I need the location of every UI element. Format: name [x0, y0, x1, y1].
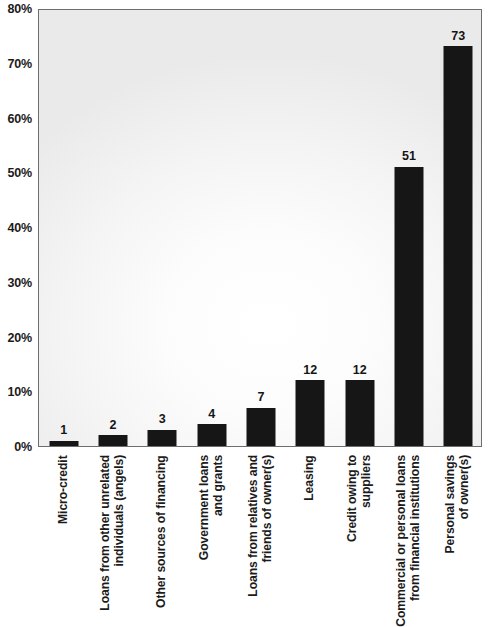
x-axis-tick: Loans from other unrelated individuals (… [87, 452, 136, 627]
bar-value-label: 12 [303, 364, 317, 377]
y-axis-tick-label: 40% [8, 221, 32, 235]
x-axis-tick: Credit owing to suppliers [334, 452, 383, 627]
bar-value-label: 1 [60, 424, 67, 437]
x-axis-tick-label: Leasing [302, 455, 316, 627]
x-axis-tick: Loans from relatives and friends of owne… [235, 452, 284, 627]
bar[interactable] [394, 167, 423, 446]
bar-slot: 2 [88, 10, 137, 446]
bar-value-label: 12 [353, 364, 367, 377]
x-axis-tick: Micro-credit [38, 452, 87, 627]
bar-slot: 51 [384, 10, 433, 446]
bar[interactable] [296, 380, 325, 446]
x-axis-tick: Personal savings of owner(s) [433, 452, 482, 627]
bar[interactable] [148, 430, 177, 446]
bar-slot: 4 [187, 10, 236, 446]
x-axis-tick-label: Commercial or personal loans from financ… [394, 455, 423, 627]
x-axis-tick: Leasing [285, 452, 334, 627]
y-axis-tick-label: 20% [8, 331, 32, 345]
bar-value-label: 4 [208, 408, 215, 421]
x-axis-tick-label: Loans from other unrelated individuals (… [98, 455, 127, 627]
bar-slot: 73 [434, 10, 482, 446]
x-axis-tick: Other sources of financing [137, 452, 186, 627]
bar-value-label: 73 [451, 30, 465, 43]
plot-area: 1234712125173 [38, 9, 482, 447]
x-axis-tick: Government loans and grants [186, 452, 235, 627]
x-axis-tick: Commercial or personal loans from financ… [383, 452, 432, 627]
y-axis-tick-label: 80% [8, 2, 32, 16]
bar-value-label: 7 [258, 391, 265, 404]
x-axis-tick-label: Micro-credit [55, 455, 69, 627]
bar[interactable] [197, 424, 226, 446]
x-axis: Micro-creditLoans from other unrelated i… [38, 452, 482, 627]
bar[interactable] [345, 380, 374, 446]
bar-value-label: 51 [402, 150, 416, 163]
bar[interactable] [444, 46, 473, 446]
y-axis-tick-label: 50% [8, 166, 32, 180]
bar-slot: 3 [138, 10, 187, 446]
y-axis-tick-label: 0% [14, 440, 32, 454]
y-axis-tick-label: 10% [8, 385, 32, 399]
x-axis-tick-label: Government loans and grants [196, 455, 225, 627]
bar[interactable] [246, 408, 275, 446]
y-axis-tick-label: 60% [8, 112, 32, 126]
x-axis-tick-label: Personal savings of owner(s) [443, 455, 472, 627]
y-axis: 0%10%20%30%40%50%60%70%80% [0, 0, 36, 460]
bar-value-label: 3 [159, 413, 166, 426]
bar-slot: 7 [236, 10, 285, 446]
y-axis-tick-label: 70% [8, 57, 32, 71]
bars-layer: 1234712125173 [39, 10, 481, 446]
y-axis-tick-label: 30% [8, 276, 32, 290]
bar-slot: 1 [39, 10, 88, 446]
x-axis-tick-label: Loans from relatives and friends of owne… [246, 455, 275, 627]
bar-chart: 0%10%20%30%40%50%60%70%80% 1234712125173… [0, 0, 493, 627]
bar-slot: 12 [286, 10, 335, 446]
bar-value-label: 2 [110, 419, 117, 432]
bar-slot: 12 [335, 10, 384, 446]
x-axis-tick-label: Other sources of financing [154, 455, 168, 627]
bar[interactable] [98, 435, 127, 446]
bar[interactable] [49, 441, 78, 446]
x-axis-tick-label: Credit owing to suppliers [344, 455, 373, 627]
